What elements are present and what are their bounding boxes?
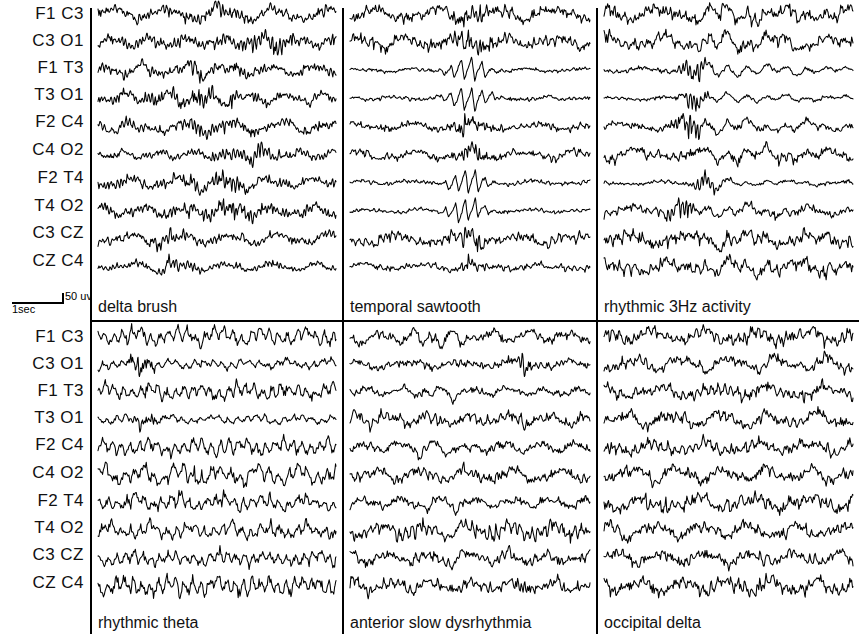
eeg-trace-path <box>350 170 590 193</box>
eeg-trace-path <box>98 59 336 83</box>
eeg-trace-path <box>350 545 590 569</box>
scale-bar-amplitude-line <box>62 293 64 304</box>
eeg-trace <box>350 518 590 543</box>
eeg-trace-path <box>98 170 336 196</box>
eeg-trace-path <box>604 142 853 167</box>
channel-label: C3 O1 <box>32 355 84 372</box>
scale-bar-time-label: 1sec <box>12 304 35 315</box>
channel-label: C3 CZ <box>32 546 84 563</box>
eeg-trace <box>604 91 853 111</box>
channel-label: T3 O1 <box>34 409 84 426</box>
eeg-trace <box>350 30 590 55</box>
eeg-trace-path <box>350 198 590 223</box>
eeg-trace-path <box>604 325 853 349</box>
eeg-trace-path <box>98 462 336 487</box>
eeg-trace-path <box>98 142 336 167</box>
eeg-trace-path <box>604 351 853 375</box>
eeg-trace-path <box>98 354 336 377</box>
eeg-trace <box>98 199 336 224</box>
eeg-trace-path <box>98 29 336 55</box>
eeg-trace-path <box>350 114 590 138</box>
eeg-trace <box>350 545 590 569</box>
eeg-trace <box>604 519 853 543</box>
channel-label: F1 T3 <box>37 59 84 76</box>
eeg-figure: F1 C3 C3 O1 F1 T3 T3 O1 F2 C4 C4 O2 F2 T… <box>0 0 859 636</box>
eeg-trace <box>350 496 590 516</box>
eeg-trace-path <box>604 407 853 432</box>
eeg-trace-path <box>98 199 336 224</box>
eeg-trace <box>98 170 336 196</box>
eeg-trace <box>604 170 853 195</box>
eeg-trace <box>350 462 590 484</box>
eeg-trace-path <box>604 57 853 81</box>
trace-canvas <box>598 322 859 604</box>
eeg-trace-path <box>98 116 336 139</box>
eeg-trace-path <box>98 228 336 252</box>
eeg-trace-path <box>350 574 590 599</box>
eeg-trace <box>98 573 336 598</box>
eeg-trace-path <box>350 88 590 111</box>
eeg-trace <box>350 57 590 81</box>
panel-title: anterior slow dysrhythmia <box>350 614 531 632</box>
eeg-trace <box>604 434 853 458</box>
eeg-trace-path <box>604 549 853 571</box>
eeg-trace <box>604 407 853 432</box>
eeg-trace <box>604 379 853 403</box>
eeg-trace <box>98 434 336 459</box>
eeg-trace <box>98 142 336 167</box>
eeg-trace-path <box>604 3 853 27</box>
trace-canvas <box>92 322 342 604</box>
channel-label: C4 O2 <box>32 141 84 158</box>
eeg-trace <box>350 353 590 376</box>
channel-label: F2 T4 <box>37 169 84 186</box>
eeg-trace <box>98 324 336 349</box>
eeg-trace-path <box>98 573 336 598</box>
panel-title: occipital delta <box>604 614 701 632</box>
eeg-trace <box>98 59 336 83</box>
panel-delta-brush: delta brush <box>92 0 342 320</box>
channel-label: CZ C4 <box>32 574 84 591</box>
eeg-trace-path <box>350 227 590 252</box>
eeg-trace <box>98 490 336 513</box>
trace-canvas <box>92 0 342 285</box>
channel-label: T4 O2 <box>34 197 84 214</box>
panel-title: rhythmic theta <box>98 614 198 632</box>
eeg-trace <box>98 116 336 139</box>
panel-rhythmic-3hz-activity: rhythmic 3Hz activity <box>598 0 859 320</box>
eeg-trace-path <box>98 1 336 25</box>
eeg-trace <box>604 228 853 252</box>
eeg-trace <box>350 88 590 111</box>
channel-label: F1 T3 <box>37 382 84 399</box>
eeg-trace <box>350 384 590 404</box>
eeg-trace <box>98 228 336 252</box>
eeg-trace-path <box>98 490 336 513</box>
eeg-trace-path <box>98 434 336 459</box>
channel-label: C3 CZ <box>32 224 84 241</box>
eeg-trace <box>604 3 853 27</box>
eeg-trace-path <box>98 324 336 349</box>
eeg-trace-path <box>350 462 590 484</box>
eeg-trace <box>350 198 590 223</box>
eeg-trace-path <box>98 518 336 541</box>
channel-label: F1 C3 <box>35 5 84 22</box>
eeg-trace-path <box>604 434 853 458</box>
eeg-trace-path <box>98 545 336 569</box>
trace-canvas <box>344 322 596 604</box>
eeg-trace-path <box>604 491 853 516</box>
eeg-trace-path <box>604 573 853 598</box>
panel-title: rhythmic 3Hz activity <box>604 298 751 316</box>
channel-label: T3 O1 <box>34 86 84 103</box>
eeg-trace <box>604 325 853 349</box>
channel-label: C4 O2 <box>32 464 84 481</box>
eeg-trace-path <box>350 4 590 27</box>
eeg-trace-path <box>98 254 336 275</box>
eeg-trace <box>98 29 336 55</box>
eeg-trace <box>604 57 853 81</box>
channel-label: F2 C4 <box>35 113 84 130</box>
eeg-trace <box>98 518 336 541</box>
panel-title: temporal sawtooth <box>350 298 481 316</box>
eeg-trace-path <box>604 519 853 543</box>
trace-canvas <box>344 0 596 285</box>
channel-label: F1 C3 <box>35 328 84 345</box>
eeg-trace <box>604 142 853 167</box>
